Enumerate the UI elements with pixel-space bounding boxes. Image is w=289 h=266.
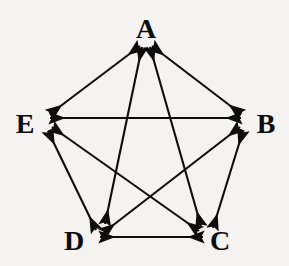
graph-edge-e-d (48, 131, 96, 230)
graph-diagram-figure: A B C D E (0, 0, 289, 266)
edge-layer (48, 46, 243, 237)
node-label-e: E (5, 110, 45, 138)
node-label-d: D (54, 227, 94, 255)
graph-edge-b-d (103, 127, 240, 233)
node-label-c: C (200, 227, 240, 255)
graph-edge-a-d (105, 47, 142, 224)
graph-edge-a-c (150, 47, 201, 226)
node-label-b: B (246, 110, 286, 138)
graph-edge-a-e (50, 46, 140, 114)
node-label-a: A (126, 15, 166, 43)
